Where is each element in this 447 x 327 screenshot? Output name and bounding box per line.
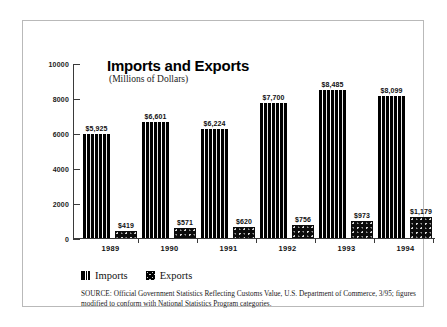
- y-tick-mark: [73, 99, 80, 100]
- bar-value-imports: $6,224: [203, 120, 225, 127]
- bar-imports[interactable]: $8,485: [319, 90, 346, 238]
- x-tick-mark: [315, 239, 316, 243]
- bar-group: $6,224$6201991: [199, 62, 258, 238]
- y-tick-label: 2000: [53, 201, 69, 208]
- bar-group: $8,099$1,1791994: [376, 62, 435, 238]
- bar-value-exports: $973: [354, 212, 370, 219]
- bar-value-imports: $7,700: [262, 94, 284, 101]
- y-tick-mark: [73, 239, 80, 240]
- bar-group: $5,925$4191989: [81, 62, 140, 238]
- x-axis-label: 1994: [376, 244, 435, 253]
- y-tick: 8000: [73, 99, 80, 100]
- bar-value-exports: $1,179: [410, 208, 432, 215]
- bar-imports[interactable]: $7,700: [260, 103, 287, 238]
- bar-value-imports: $5,925: [85, 125, 107, 132]
- bar-exports[interactable]: $571: [174, 228, 196, 238]
- bar-imports[interactable]: $5,925: [83, 134, 110, 238]
- bar-value-exports: $620: [236, 218, 252, 225]
- y-tick-label: 10000: [49, 61, 69, 68]
- chart-frame: Imports and Exports (Millions of Dollars…: [22, 20, 424, 307]
- y-tick-label: 4000: [53, 166, 69, 173]
- exports-swatch-icon: [146, 271, 155, 280]
- y-tick-label: 6000: [53, 131, 69, 138]
- x-tick-mark: [256, 239, 257, 243]
- bar-exports[interactable]: $419: [115, 231, 137, 238]
- y-tick: 10000: [73, 64, 80, 65]
- bar-exports[interactable]: $756: [292, 225, 314, 238]
- x-axis-label: 1991: [199, 244, 258, 253]
- bar-imports[interactable]: $6,601: [142, 122, 169, 238]
- y-tick: 2000: [73, 204, 80, 205]
- chart-legend: Imports Exports: [81, 270, 192, 281]
- bar-exports[interactable]: $1,179: [410, 217, 432, 238]
- bar-value-exports: $571: [177, 219, 193, 226]
- imports-swatch-icon: [81, 271, 90, 280]
- bar-group: $6,601$5711990: [140, 62, 199, 238]
- bar-imports[interactable]: $6,224: [201, 129, 228, 238]
- bar-group: $7,700$7561992: [258, 62, 317, 238]
- bar-imports[interactable]: $8,099: [378, 96, 405, 238]
- bar-value-imports: $8,099: [380, 87, 402, 94]
- legend-item-exports[interactable]: Exports: [146, 270, 193, 281]
- legend-item-imports[interactable]: Imports: [81, 270, 128, 281]
- y-tick-label: 8000: [53, 96, 69, 103]
- y-tick: 6000: [73, 134, 80, 135]
- chart-figure: Imports and Exports (Millions of Dollars…: [0, 0, 447, 327]
- x-tick-mark: [433, 239, 434, 243]
- bar-group: $8,485$9731993: [317, 62, 376, 238]
- y-tick: 4000: [73, 169, 80, 170]
- bar-exports[interactable]: $620: [233, 227, 255, 238]
- bar-value-imports: $8,485: [321, 81, 343, 88]
- y-tick-mark: [73, 204, 80, 205]
- y-tick-mark: [73, 169, 80, 170]
- plot-area: 0200040006000800010000 $5,925$4191989$6,…: [73, 63, 441, 239]
- source-note: SOURCE: Official Government Statistics R…: [81, 289, 433, 309]
- bar-value-imports: $6,601: [144, 113, 166, 120]
- legend-label-imports: Imports: [95, 270, 128, 281]
- x-axis-label: 1989: [81, 244, 140, 253]
- y-axis-line: [73, 65, 74, 239]
- y-tick: 0: [73, 239, 80, 240]
- legend-label-exports: Exports: [160, 270, 193, 281]
- bar-value-exports: $756: [295, 216, 311, 223]
- x-axis-label: 1992: [258, 244, 317, 253]
- bar-value-exports: $419: [118, 222, 134, 229]
- x-axis-label: 1993: [317, 244, 376, 253]
- y-tick-label: 0: [65, 236, 69, 243]
- x-tick-mark: [197, 239, 198, 243]
- x-axis-label: 1990: [140, 244, 199, 253]
- y-tick-mark: [73, 64, 80, 65]
- x-tick-mark: [374, 239, 375, 243]
- x-tick-mark: [138, 239, 139, 243]
- y-tick-mark: [73, 134, 80, 135]
- x-axis-line: [73, 238, 435, 239]
- bar-exports[interactable]: $973: [351, 221, 373, 238]
